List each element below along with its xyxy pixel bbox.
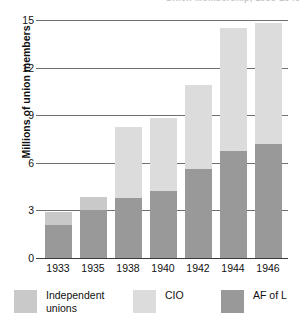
legend-swatch-independent-unions xyxy=(14,290,37,313)
segment-af-of-l xyxy=(115,198,142,258)
bar-group xyxy=(0,0,306,258)
legend-label-cio: CIO xyxy=(165,288,184,302)
bar-1933[interactable] xyxy=(45,212,72,258)
legend-label-independent-unions: Independent unions xyxy=(46,288,104,314)
segment-af-of-l xyxy=(220,151,247,258)
segment-af-of-l xyxy=(185,169,212,258)
segment-cio xyxy=(115,127,142,198)
legend-label-af-of-l: AF of L xyxy=(253,288,287,302)
segment-af-of-l xyxy=(45,225,72,258)
segment-cio xyxy=(255,23,282,144)
segment-af-of-l xyxy=(80,210,107,259)
chart-legend: Independent unions CIO AF of L xyxy=(0,288,306,330)
bar-1938[interactable] xyxy=(115,127,142,258)
segment-cio xyxy=(220,28,247,151)
segment-independent-unions xyxy=(80,197,107,210)
legend-item-cio[interactable]: CIO xyxy=(133,288,184,313)
bar-1940[interactable] xyxy=(150,118,177,258)
segment-af-of-l xyxy=(150,191,177,258)
legend-swatch-cio xyxy=(133,290,156,313)
segment-independent-unions xyxy=(45,212,72,225)
plot-area: Millions of union members 15 12 9 6 3 0 xyxy=(0,0,306,275)
x-tick-label-1946: 1946 xyxy=(245,262,291,274)
bar-1944[interactable] xyxy=(220,28,247,259)
legend-swatch-af-of-l xyxy=(221,290,244,313)
bar-1942[interactable] xyxy=(185,85,212,258)
segment-cio xyxy=(185,85,212,169)
legend-item-independent-unions[interactable]: Independent unions xyxy=(14,288,104,314)
bar-1935[interactable] xyxy=(80,197,107,258)
bar-1946[interactable] xyxy=(255,23,282,258)
segment-cio xyxy=(150,118,177,191)
chart-root: Union Membership, 1933-1946 Millions of … xyxy=(0,0,306,330)
legend-item-af-of-l[interactable]: AF of L xyxy=(221,288,287,313)
x-axis-line xyxy=(36,258,288,259)
segment-af-of-l xyxy=(255,144,282,259)
